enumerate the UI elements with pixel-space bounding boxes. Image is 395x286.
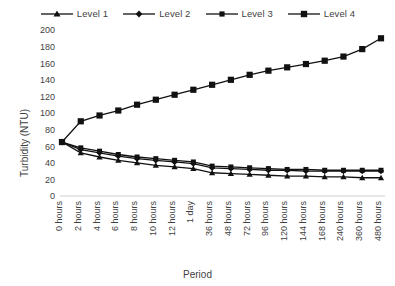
data-point-marker: [284, 64, 290, 70]
y-axis-tick-label: 60: [45, 142, 55, 152]
series-level-2: [59, 139, 384, 174]
data-point-marker: [78, 145, 83, 150]
data-point-marker: [378, 35, 384, 41]
data-point-marker: [322, 58, 328, 64]
data-point-marker: [190, 87, 196, 93]
x-axis-tick-label: 8 hours: [129, 201, 139, 232]
data-point-marker: [360, 168, 365, 173]
data-point-marker: [247, 165, 252, 170]
y-axis-tick-label: 0: [50, 191, 55, 201]
data-point-marker: [116, 152, 121, 157]
data-point-marker: [134, 102, 140, 108]
x-axis-tick-label: 36 hours: [204, 201, 214, 237]
data-point-marker: [285, 167, 290, 172]
x-axis-tick-label: 10 hours: [148, 201, 158, 237]
x-axis-tick-label: 2 hours: [73, 201, 83, 232]
y-axis-tick-label: 140: [40, 75, 55, 85]
series-line: [62, 38, 381, 142]
data-point-marker: [228, 77, 234, 83]
y-axis-tick-label: 120: [40, 92, 55, 102]
data-point-marker: [228, 164, 233, 169]
x-axis-tick-label: 144 hours: [298, 201, 308, 242]
data-point-marker: [209, 82, 215, 88]
x-axis-tick-label: 360 hours: [354, 201, 364, 242]
data-point-marker: [265, 68, 271, 74]
data-point-marker: [210, 164, 215, 169]
x-axis-tick-label: 6 hours: [110, 201, 120, 232]
x-axis-tick-label: 240 hours: [335, 201, 345, 242]
series-line: [62, 142, 381, 170]
data-point-marker: [303, 61, 309, 67]
x-axis-tick-label: 120 hours: [279, 201, 289, 242]
data-point-marker: [115, 107, 121, 113]
data-point-marker: [97, 149, 102, 154]
data-point-marker: [303, 167, 308, 172]
x-axis-tick-label: 12 hours: [167, 201, 177, 237]
y-axis-tick-label: 40: [45, 158, 55, 168]
series-level-4: [59, 35, 384, 145]
x-axis-tick-label: 480 hours: [373, 201, 383, 242]
plot-area: 0204060801001201401601802000 hours2 hour…: [0, 0, 395, 286]
x-axis-tick-label: 72 hours: [242, 201, 252, 237]
data-point-marker: [340, 53, 346, 59]
y-axis-tick-label: 80: [45, 125, 55, 135]
data-point-marker: [171, 92, 177, 98]
data-point-marker: [172, 158, 177, 163]
data-point-marker: [247, 72, 253, 78]
data-point-marker: [78, 118, 84, 124]
data-point-marker: [266, 166, 271, 171]
data-point-marker: [322, 168, 327, 173]
series-level-1: [59, 139, 384, 180]
x-axis-tick-label: 48 hours: [223, 201, 233, 237]
x-axis-tick-label: 168 hours: [317, 201, 327, 242]
y-axis-tick-label: 160: [40, 59, 55, 69]
y-axis-tick-label: 20: [45, 175, 55, 185]
data-point-marker: [153, 97, 159, 103]
x-axis-tick-label: 4 hours: [92, 201, 102, 232]
data-point-marker: [135, 154, 140, 159]
x-axis-tick-label: 0 hours: [54, 201, 64, 232]
data-point-marker: [341, 168, 346, 173]
turbidity-line-chart: Level 1 Level 2 Level 3 Level 4 Turbidit…: [0, 0, 395, 286]
y-axis-tick-label: 100: [40, 108, 55, 118]
data-point-marker: [59, 139, 65, 145]
data-point-marker: [359, 46, 365, 52]
data-point-marker: [153, 156, 158, 161]
data-point-marker: [96, 112, 102, 118]
y-axis-tick-label: 180: [40, 42, 55, 52]
data-point-marker: [379, 168, 384, 173]
x-axis-tick-label: 1 day: [185, 201, 195, 224]
data-point-marker: [191, 159, 196, 164]
x-axis-tick-label: 96 hours: [260, 201, 270, 237]
series-line: [62, 142, 381, 178]
y-axis-tick-label: 200: [40, 25, 55, 35]
